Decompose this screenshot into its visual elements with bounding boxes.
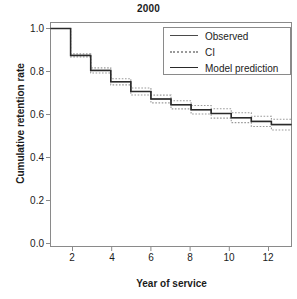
legend-label-observed: Observed <box>205 31 248 42</box>
legend-item-ci: CI <box>164 44 290 60</box>
legend-item-model-prediction: Model prediction <box>164 60 290 76</box>
legend-label-ci: CI <box>205 47 215 58</box>
legend-item-observed: Observed <box>164 28 290 44</box>
legend: Observed CI Model prediction <box>163 27 291 75</box>
legend-line-icon-ci <box>169 45 199 59</box>
legend-line-icon-observed <box>169 29 199 43</box>
legend-label-model-prediction: Model prediction <box>205 63 278 74</box>
legend-line-icon-model-prediction <box>169 61 199 75</box>
chart-figure: 2000 Cumulative retention rate Year of s… <box>0 0 297 299</box>
